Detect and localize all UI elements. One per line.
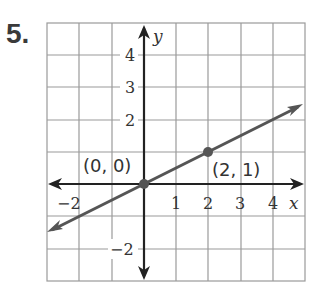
x-tick-4: 4 xyxy=(268,194,278,213)
point-origin xyxy=(139,179,149,189)
point-label-2-1: (2, 1) xyxy=(212,159,260,180)
x-tick-neg2: −2 xyxy=(57,194,81,213)
grid xyxy=(47,23,305,281)
y-tick-4: 4 xyxy=(125,46,135,65)
x-tick-3: 3 xyxy=(235,194,245,213)
point-2-1 xyxy=(203,147,213,157)
y-axis-label: y xyxy=(152,26,163,46)
x-tick-1: 1 xyxy=(171,194,181,213)
y-tick-neg2: −2 xyxy=(110,240,134,259)
x-axis-label: x xyxy=(289,193,299,213)
y-tick-2: 2 xyxy=(125,111,135,130)
x-tick-2: 2 xyxy=(203,194,213,213)
y-tick-3: 3 xyxy=(125,78,135,97)
coordinate-plane: 4 3 2 −2 −2 1 2 3 4 x y (0, 0) (2, 1) xyxy=(0,0,317,283)
point-label-origin: (0, 0) xyxy=(83,155,131,176)
